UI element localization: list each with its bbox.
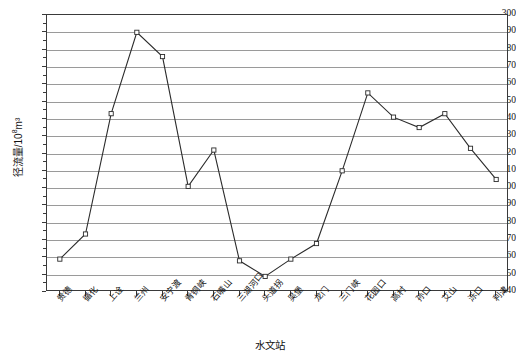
data-point-marker [289,257,293,261]
series-line [60,32,496,276]
runoff-line-chart: 径流量/108m³ 300290280270260250240230220210… [0,0,516,360]
x-axis-title: 水文站 [255,337,285,352]
data-point-marker [109,112,113,116]
y-axis-title-exponent: 8 [11,129,18,133]
y-axis-title-tail: m³ [13,118,24,130]
data-point-marker [237,259,241,263]
data-point-marker [83,232,87,236]
data-point-marker [160,54,164,58]
data-point-marker [135,30,139,34]
data-point-marker [212,148,216,152]
y-axis-title-main: 径流量/10 [13,133,24,177]
data-point-marker [366,91,370,95]
plot-area [46,14,508,291]
y-tick-mark [42,291,46,292]
data-point-marker [340,169,344,173]
y-axis-title: 径流量/108m³ [10,103,25,193]
data-point-marker [58,257,62,261]
data-point-marker [186,184,190,188]
data-point-marker [314,241,318,245]
data-point-marker [468,146,472,150]
data-series-runoff [47,15,509,292]
data-point-marker [417,125,421,129]
data-point-marker [391,115,395,119]
data-point-marker [494,177,498,181]
data-point-marker [443,112,447,116]
